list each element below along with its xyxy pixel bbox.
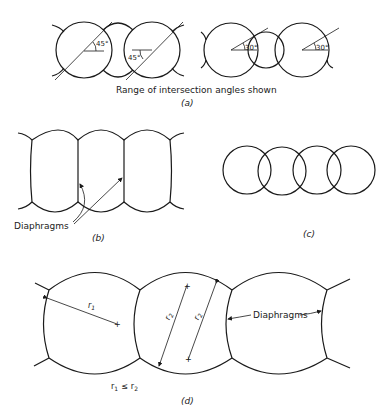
connecting-arc <box>103 70 133 77</box>
radius-r2-line <box>188 283 216 360</box>
angle-label: 30° <box>316 44 328 52</box>
panel-c: (c) <box>223 146 375 239</box>
cell-top-arcs <box>32 130 170 140</box>
cell-bottom-arcs <box>32 202 170 212</box>
center-mark: + <box>185 355 192 364</box>
arc-stub <box>34 358 49 366</box>
arc-stub <box>52 25 64 32</box>
cell-top-arc <box>49 273 140 291</box>
r-relation: r1≤r2 <box>111 382 138 392</box>
panel-d-label: (d) <box>181 396 194 406</box>
center-mark: + <box>114 320 121 329</box>
arc-stub <box>170 202 184 209</box>
arc-stub <box>327 60 333 68</box>
cell-bottom-arc <box>49 358 140 374</box>
arc-stub <box>18 133 32 140</box>
angle-label: 30° <box>245 44 257 52</box>
diaphragm <box>134 290 140 358</box>
r1-label: r1 <box>88 301 95 311</box>
panel-a-right: 30° 30° <box>201 23 339 77</box>
panel-c-label: (c) <box>303 229 315 239</box>
callout-arrow <box>74 178 122 224</box>
arc-stub <box>172 68 184 76</box>
panel-d: + r1 + + r2 r2 Diaphragms r1≤r2 (d) <box>34 273 350 407</box>
panel-b-label: (b) <box>92 233 105 243</box>
arc-stub <box>52 68 64 76</box>
angle-label: 45° <box>96 40 108 48</box>
diaphragm <box>226 290 232 358</box>
radius-r2-line <box>159 285 187 366</box>
panel-a-label: (a) <box>181 98 194 108</box>
arc-stub <box>327 358 350 368</box>
cell-circle <box>327 146 375 194</box>
angle-label: 45° <box>128 54 140 62</box>
arc-stub <box>201 60 206 68</box>
panel-a-left: 45° 45° <box>52 22 184 80</box>
r2-label: r2 <box>163 311 175 321</box>
radius-r1-line <box>47 298 117 324</box>
diaphragm <box>322 290 328 358</box>
cell-bottom-arc <box>232 358 327 374</box>
panel-a-caption: Range of intersection angles shown <box>116 85 277 95</box>
diaphragm <box>170 140 172 202</box>
arc-stub <box>35 283 49 290</box>
arc-stub <box>18 202 32 209</box>
diaphragms-callout: Diaphragms <box>14 221 69 231</box>
cell-top-arc <box>232 273 327 291</box>
diaphragms-callout: Diaphragms <box>253 310 308 320</box>
arc-stub <box>327 279 350 290</box>
arc-stub <box>170 133 184 140</box>
diaphragm <box>44 290 50 358</box>
r2-label: r2 <box>192 311 204 321</box>
center-mark: + <box>184 282 191 291</box>
cellular-cofferdam-diagram: 45° 45° 30° 30° Range of intersection an… <box>0 0 392 419</box>
panel-b: Diaphragms (b) <box>14 130 184 243</box>
callout-arrow <box>228 315 251 319</box>
arc-stub <box>201 32 206 40</box>
diaphragm <box>31 140 33 202</box>
